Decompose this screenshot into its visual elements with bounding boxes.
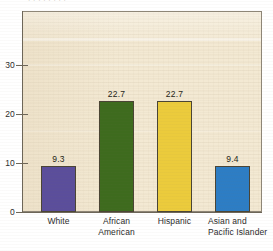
bar-african-american bbox=[99, 101, 134, 212]
category-label-african-american-line-2: American bbox=[91, 227, 142, 238]
bar-value-african-american: 22.7 bbox=[99, 89, 134, 99]
y-tick-mark-30 bbox=[16, 65, 28, 66]
category-label-asian-pacific-islander: Asian and Pacific Islander bbox=[204, 216, 273, 237]
category-label-white-line-1: White bbox=[33, 216, 84, 227]
category-label-african-american: African American bbox=[91, 216, 142, 237]
bar-asian-pacific-islander bbox=[215, 166, 250, 212]
y-tick-label-30: 30 bbox=[1, 60, 15, 70]
paper-scan-band bbox=[23, 38, 261, 41]
category-label-hispanic: Hispanic bbox=[149, 216, 200, 227]
y-axis-tick-labels: 30 20 10 0 bbox=[0, 0, 15, 251]
bar-value-white: 9.3 bbox=[41, 154, 76, 164]
y-tick-mark-10 bbox=[16, 163, 28, 164]
bar-white bbox=[41, 166, 76, 212]
clipped-chart-title: · · · · · · · · bbox=[28, 0, 268, 6]
category-label-white: White bbox=[33, 216, 84, 227]
y-axis-line bbox=[22, 11, 23, 213]
category-label-asian-pacific-islander-line-2: Pacific Islander bbox=[208, 227, 273, 238]
bar-chart-figure: · · · · · · · · 30 20 10 0 9.3 22.7 22.7… bbox=[0, 0, 273, 251]
y-tick-mark-20 bbox=[16, 114, 28, 115]
bar-hispanic bbox=[157, 101, 192, 212]
category-label-hispanic-line-1: Hispanic bbox=[149, 216, 200, 227]
bar-value-hispanic: 22.7 bbox=[157, 89, 192, 99]
paper-scan-band bbox=[23, 130, 261, 132]
category-label-asian-pacific-islander-line-1: Asian and bbox=[208, 216, 273, 227]
x-axis-line bbox=[16, 212, 262, 213]
y-tick-label-20: 20 bbox=[1, 109, 15, 119]
y-tick-label-10: 10 bbox=[1, 158, 15, 168]
y-tick-mark-0 bbox=[16, 212, 28, 213]
y-tick-label-0: 0 bbox=[1, 207, 15, 217]
bar-value-asian-pacific-islander: 9.4 bbox=[215, 154, 250, 164]
category-label-african-american-line-1: African bbox=[91, 216, 142, 227]
paper-scan-band bbox=[23, 64, 261, 66]
